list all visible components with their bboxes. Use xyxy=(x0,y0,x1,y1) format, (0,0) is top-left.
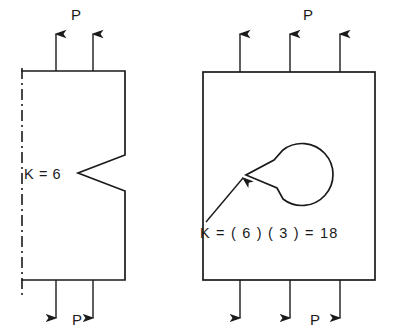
left-bottom-load-label: P xyxy=(72,311,82,328)
left-top-load-arrows xyxy=(56,34,93,71)
right-top-load-label: P xyxy=(303,6,313,23)
figure-canvas: P P K = 6 xyxy=(0,0,396,336)
right-top-load-arrows xyxy=(240,34,340,72)
left-top-load-label: P xyxy=(71,6,81,23)
right-panel-group: P P K = ( 6 ) ( 3 ) = 18 xyxy=(200,6,375,328)
right-bottom-load-label: P xyxy=(310,311,320,328)
plate-outline xyxy=(203,72,375,280)
right-bottom-load-arrows xyxy=(240,280,340,318)
crack-tip-leader-arrow xyxy=(206,178,243,222)
left-panel-group: P P K = 6 xyxy=(22,6,125,328)
fracture-mechanics-figure: P P K = 6 xyxy=(0,0,396,336)
left-k-value-label: K = 6 xyxy=(24,166,61,182)
right-k-value-label: K = ( 6 ) ( 3 ) = 18 xyxy=(200,225,338,241)
circular-hole-with-crack xyxy=(246,144,333,206)
